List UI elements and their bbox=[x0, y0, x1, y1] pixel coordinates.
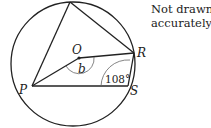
note-line-2: accurately bbox=[151, 16, 211, 30]
label-b: b bbox=[78, 62, 86, 76]
label-S: S bbox=[130, 84, 138, 98]
label-108: 108° bbox=[105, 73, 130, 85]
label-R: R bbox=[136, 46, 146, 60]
circle-theorem-diagram: O b 108° P R S Not drawn accurately bbox=[0, 0, 211, 128]
circle bbox=[11, 2, 135, 126]
label-P: P bbox=[18, 83, 28, 97]
note-line-1: Not drawn bbox=[151, 2, 211, 16]
label-O: O bbox=[72, 43, 82, 57]
radius-OR bbox=[79, 53, 134, 58]
chord-PT bbox=[32, 2, 70, 86]
